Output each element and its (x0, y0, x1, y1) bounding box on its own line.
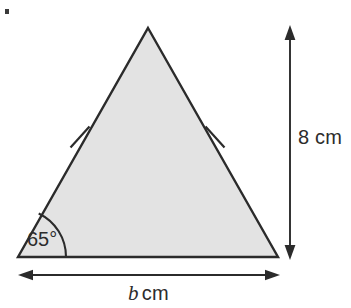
base-dimension-arrow (18, 270, 280, 280)
height-arrowhead-down (285, 245, 296, 260)
base-variable-symbol: b (128, 281, 142, 305)
base-arrowhead-right (265, 270, 280, 280)
height-label: 8 cm (298, 126, 342, 149)
height-arrowhead-up (285, 25, 296, 40)
base-unit-text: cm (142, 282, 169, 304)
scan-artifact-speck (5, 9, 9, 14)
base-arrowhead-left (18, 270, 33, 280)
triangle-shape (18, 28, 278, 257)
height-dimension-arrow (285, 25, 296, 260)
geometry-figure: 65° 8 cm bcm (0, 0, 351, 308)
angle-label: 65° (27, 228, 57, 251)
base-label: bcm (128, 281, 169, 306)
triangle-diagram-canvas (0, 0, 351, 308)
